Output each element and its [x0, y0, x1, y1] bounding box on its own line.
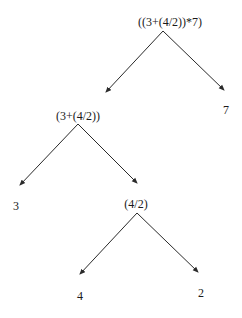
node-label-left1: (3+(4/2)) [56, 109, 100, 123]
edge-arrow-root-to-left1 [106, 31, 163, 92]
node-label-right1: 7 [223, 103, 229, 117]
edge-arrow-left1-to-left2 [20, 124, 78, 185]
node-label-right3: 2 [198, 286, 204, 300]
node-label-left3: 4 [77, 289, 83, 303]
edge-arrow-right2-to-right3 [137, 213, 198, 272]
expression-tree-diagram: ((3+(4/2))*7)(3+(4/2))73(4/2)42 [0, 0, 242, 318]
edge-arrow-right2-to-left3 [80, 213, 137, 274]
node-label-left2: 3 [13, 199, 19, 213]
node-label-root: ((3+(4/2))*7) [138, 15, 202, 29]
tree-edges [20, 31, 224, 274]
edge-arrow-left1-to-right2 [78, 124, 137, 183]
node-label-right2: (4/2) [124, 197, 147, 211]
edge-arrow-root-to-right1 [163, 31, 224, 90]
